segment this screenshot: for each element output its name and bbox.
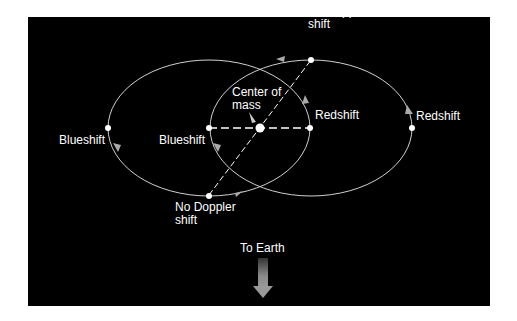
blueshift-left-label: Blueshift xyxy=(59,134,105,147)
no-doppler-bottom-label: No Doppler shift xyxy=(175,201,236,227)
to-earth-label: To Earth xyxy=(240,242,285,255)
center-of-mass-label: Center of mass xyxy=(232,86,281,112)
star-point-no-doppler-top xyxy=(308,57,314,63)
to-earth-arrow-icon xyxy=(253,258,273,298)
star-point-no-doppler-bottom xyxy=(206,193,212,199)
no-doppler-top-label: No Doppler shift xyxy=(308,5,369,31)
blueshift-inner-label: Blueshift xyxy=(159,134,205,147)
center-of-mass-point xyxy=(256,124,265,133)
redshift-inner-label: Redshift xyxy=(315,109,359,122)
redshift-right-label: Redshift xyxy=(416,110,460,123)
star-point-blueshift-inner xyxy=(206,125,212,131)
arrow-icon xyxy=(276,56,285,62)
orbit-diagram xyxy=(0,0,517,321)
star-point-redshift-inner xyxy=(307,125,313,131)
pointer-icon xyxy=(249,112,256,123)
star-point-redshift-right xyxy=(409,125,415,131)
star-point-blueshift-left xyxy=(105,125,111,131)
arrow-icon xyxy=(302,95,309,104)
arrow-icon xyxy=(235,191,243,197)
